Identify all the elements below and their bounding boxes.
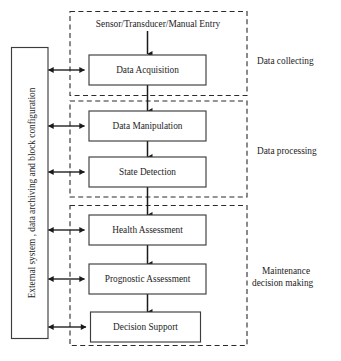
node-data-manipulation[interactable]: Data Manipulation [89,111,206,141]
group-label-maintenance-line-2: decision making [252,278,314,288]
node-label-state-detection: State Detection [119,167,176,177]
diagram-root: Sensor/Transducer/Manual Entry External … [0,0,341,361]
node-data-acquisition[interactable]: Data Acquisition [89,55,206,85]
node-label-health-assessment: Health Assessment [112,225,183,235]
source-label: Sensor/Transducer/Manual Entry [96,19,221,29]
group-label-data-collecting: Data collecting [257,56,314,66]
node-label-prognostic-assessment: Prognostic Assessment [105,274,191,284]
diagram-canvas: Sensor/Transducer/Manual Entry External … [0,0,341,361]
group-label-maintenance-line-1: Maintenance [262,266,310,276]
sidebar-label: External system , data archiving and blo… [27,87,37,298]
group-label-maintenance-decision-making: Maintenance decision making [252,266,314,288]
node-label-data-acquisition: Data Acquisition [116,65,179,75]
node-label-data-manipulation: Data Manipulation [113,121,183,131]
node-prognostic-assessment[interactable]: Prognostic Assessment [89,264,206,294]
node-health-assessment[interactable]: Health Assessment [89,215,206,245]
node-label-decision-support: Decision Support [113,322,178,332]
node-state-detection[interactable]: State Detection [89,157,206,187]
node-decision-support[interactable]: Decision Support [91,312,201,342]
group-label-data-processing: Data processing [257,146,317,156]
sidebar-block: External system , data archiving and blo… [12,48,49,339]
